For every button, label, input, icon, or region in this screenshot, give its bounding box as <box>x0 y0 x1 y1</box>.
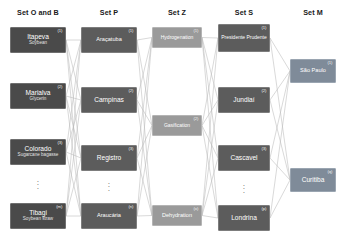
edge-set-p-1-to-set-z-1 <box>137 38 152 41</box>
edge-set-z-1-to-set-s-2 <box>202 38 218 101</box>
edge-set-s-4-to-set-m-2 <box>270 180 290 218</box>
node-set-z-2[interactable]: (2)Gasification <box>152 115 202 136</box>
node-index-label: (1) <box>57 29 62 33</box>
vertical-ellipsis-set-o-b: ··· <box>33 180 43 190</box>
node-title: Jundiaí <box>233 97 254 104</box>
node-title: Araçatuba <box>96 37 122 43</box>
ellipsis-dot: · <box>104 189 114 192</box>
edge-set-z-1-to-set-s-1 <box>202 38 218 39</box>
node-index-label: (n) <box>128 205 133 209</box>
node-index-label: (3) <box>261 147 266 151</box>
column-header-set-s: Set S <box>218 8 270 17</box>
node-set-o-b-3[interactable]: (3)ColoradoSugarcane bagasse <box>10 139 66 165</box>
node-set-z-1[interactable]: (1)Hydrogenation <box>152 27 202 48</box>
edge-set-z-3-to-set-s-4 <box>202 216 218 219</box>
ellipsis-dot: · <box>33 187 43 190</box>
edge-set-s-1-to-set-m-2 <box>270 38 290 180</box>
node-set-p-1[interactable]: (1)Araçatuba <box>81 27 137 53</box>
node-index-label: (2) <box>193 117 198 121</box>
node-title: Hydrogenation <box>161 35 194 40</box>
edge-set-s-1-to-set-m-1 <box>270 38 290 71</box>
node-index-label: (q) <box>327 170 332 174</box>
column-header-set-o-b: Set O and B <box>10 8 66 17</box>
vertical-ellipsis-set-p: ··· <box>104 182 114 192</box>
node-index-label: (2) <box>57 85 62 89</box>
column-header-set-p: Set P <box>81 8 137 17</box>
node-set-z-3[interactable]: (o)Dehydration <box>152 205 202 226</box>
node-index-label: (1) <box>327 61 332 65</box>
node-set-o-b-2[interactable]: (2)MarialvaGlycerin <box>10 83 66 109</box>
node-set-s-1[interactable]: (1)Presidente Prudente <box>218 24 270 52</box>
node-index-label: (2) <box>261 89 266 93</box>
edge-set-s-2-to-set-m-2 <box>270 100 290 180</box>
network-diagram: Set O and B(1)ItapevaSoybean(2)MarialvaG… <box>0 0 344 244</box>
node-index-label: (2) <box>128 89 133 93</box>
node-title: Curitiba <box>302 177 325 184</box>
node-subtitle: Glycerin <box>28 97 49 102</box>
node-set-p-4[interactable]: (n)Araucária <box>81 203 137 229</box>
node-title: Registro <box>97 155 122 162</box>
node-index-label: (o) <box>193 207 198 211</box>
node-title: Araucária <box>97 213 121 219</box>
node-index-label: (1) <box>261 26 266 30</box>
node-subtitle: Sugarcane bagasse <box>16 153 61 158</box>
vertical-ellipsis-set-s: ··· <box>239 184 249 194</box>
node-set-s-2[interactable]: (2)Jundiaí <box>218 87 270 113</box>
edge-set-z-3-to-set-s-2 <box>202 100 218 216</box>
node-index-label: (1) <box>193 29 198 33</box>
edge-set-p-4-to-set-z-3 <box>137 216 152 217</box>
node-title: Cascavel <box>230 155 257 162</box>
node-index-label: (p) <box>261 207 266 211</box>
node-set-m-1[interactable]: (1)São Paulo <box>290 59 336 83</box>
node-set-m-2[interactable]: (q)Curitiba <box>290 168 336 192</box>
ellipsis-dot: · <box>239 191 249 194</box>
node-title: Dehydration <box>162 213 192 219</box>
node-set-o-b-4[interactable]: (m)TibagiSoybean straw <box>10 203 66 229</box>
node-title: Gasification <box>164 123 190 128</box>
node-index-label: (1) <box>128 29 133 33</box>
node-index-label: (3) <box>57 141 62 145</box>
node-subtitle: Soybean <box>27 41 49 46</box>
node-index-label: (3) <box>128 147 133 151</box>
node-title: Presidente Prudente <box>221 35 267 41</box>
node-set-o-b-1[interactable]: (1)ItapevaSoybean <box>10 27 66 53</box>
node-title: São Paulo <box>300 68 326 74</box>
edge-set-p-2-to-set-z-3 <box>137 100 152 216</box>
column-header-set-m: Set M <box>290 8 336 17</box>
edge-set-s-2-to-set-m-1 <box>270 71 290 100</box>
column-header-set-z: Set Z <box>152 8 202 17</box>
node-index-label: (m) <box>56 205 62 209</box>
node-set-s-3[interactable]: (3)Cascavel <box>218 145 270 171</box>
node-subtitle: Soybean straw <box>21 217 55 222</box>
node-title: Londrina <box>231 215 257 222</box>
node-set-p-3[interactable]: (3)Registro <box>81 145 137 171</box>
node-set-s-4[interactable]: (p)Londrina <box>218 205 270 231</box>
node-title: Campinas <box>94 97 124 104</box>
node-set-p-2[interactable]: (2)Campinas <box>81 87 137 113</box>
